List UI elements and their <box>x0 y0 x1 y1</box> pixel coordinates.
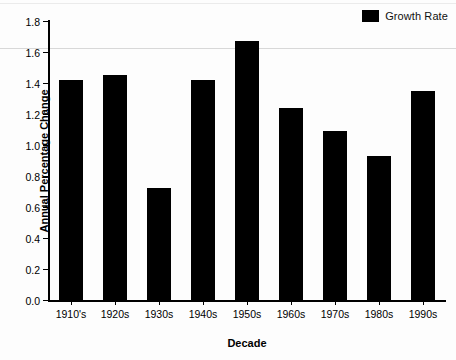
x-axis-tick-label: 1970s <box>321 308 350 320</box>
x-axis-tick <box>335 300 336 305</box>
y-axis-tick-label: 1.6 <box>25 47 40 59</box>
y-axis-tick-label: 0.2 <box>25 264 40 276</box>
x-axis-tick <box>291 300 292 305</box>
bar <box>147 188 171 300</box>
y-axis-tick: 1.8 <box>43 21 49 22</box>
x-axis-tick-label: 1960s <box>277 308 306 320</box>
x-axis-tick <box>247 300 248 305</box>
x-axis-tick <box>379 300 380 305</box>
y-axis-tick-label: 1.8 <box>25 16 40 28</box>
plot-area: 0.00.20.40.60.81.01.21.41.61.8 1910's192… <box>49 21 445 300</box>
bar <box>411 91 435 300</box>
scan-artifact-line-top <box>0 3 456 4</box>
y-axis-title-container: Annual Percentage Change <box>10 21 26 300</box>
y-axis-title: Annual Percentage Change <box>38 61 50 261</box>
x-axis-tick-label: 1940s <box>189 308 218 320</box>
x-axis-tick-label: 1990s <box>409 308 438 320</box>
y-axis-tick: 0.0 <box>43 300 49 301</box>
bar-chart: Growth Rate 0.00.20.40.60.81.01.21.41.61… <box>0 0 456 360</box>
x-axis-tick-label: 1910's <box>56 308 87 320</box>
x-axis-title: Decade <box>49 337 445 349</box>
x-axis-tick <box>159 300 160 305</box>
bar <box>367 156 391 300</box>
bar <box>59 80 83 300</box>
x-axis-tick <box>423 300 424 305</box>
y-axis-tick: 1.6 <box>43 52 49 53</box>
x-axis-tick-label: 1980s <box>365 308 394 320</box>
x-axis-tick-label: 1950s <box>233 308 262 320</box>
bar <box>235 41 259 300</box>
x-axis-tick <box>115 300 116 305</box>
bar <box>191 80 215 300</box>
bar <box>103 75 127 300</box>
x-axis-tick <box>71 300 72 305</box>
y-axis-tick: 0.2 <box>43 269 49 270</box>
x-axis-tick-label: 1930s <box>145 308 174 320</box>
y-axis-tick-label: 0.0 <box>25 295 40 307</box>
bar <box>279 108 303 300</box>
x-axis-tick-label: 1920s <box>101 308 130 320</box>
x-axis-tick <box>203 300 204 305</box>
bar <box>323 131 347 300</box>
